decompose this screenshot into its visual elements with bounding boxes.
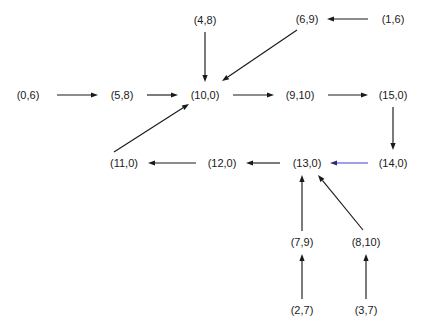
graph-node-label: (14,0): [379, 157, 408, 169]
arrow-head-icon: [171, 92, 178, 97]
graph-edge: [246, 160, 280, 165]
graph-node-label: (7,9): [291, 236, 314, 248]
arrow-head-icon: [246, 160, 253, 165]
graph-node-label: (4,8): [194, 14, 217, 26]
arrow-head-icon: [91, 92, 98, 97]
graph-edge: [148, 160, 196, 165]
diagram-canvas: (0,6)(5,8)(10,0)(9,10)(15,0)(4,8)(6,9)(1…: [0, 0, 421, 332]
graph-node-label: (11,0): [110, 157, 138, 169]
arrow-head-icon: [361, 92, 368, 97]
arrow-head-icon: [299, 254, 304, 261]
graph-node-label: (10,0): [191, 89, 220, 101]
arrow-head-icon: [330, 160, 337, 165]
graph-node-label: (15,0): [379, 89, 408, 101]
graph-node-label: (3,7): [355, 304, 378, 316]
arrow-head-icon: [299, 175, 304, 182]
arrow-head-icon: [182, 104, 189, 110]
graph-edge: [318, 175, 363, 230]
graph-node-label: (2,7): [291, 304, 314, 316]
arrow-head-icon: [327, 16, 334, 21]
graph-edge: [114, 104, 189, 152]
graph-node-label: (13,0): [293, 157, 322, 169]
arrow-head-icon: [222, 75, 229, 81]
graph-node-label: (0,6): [17, 89, 40, 101]
edge-shaft: [228, 30, 297, 77]
arrow-head-icon: [390, 143, 395, 150]
graph-node-label: (1,6): [382, 13, 405, 25]
graph-node-label: (8,10): [352, 236, 381, 248]
graph-edge: [147, 92, 178, 97]
graph-node-label: (9,10): [286, 89, 315, 101]
graph-edge: [202, 32, 207, 82]
graph-edge: [299, 175, 304, 231]
graph-edge: [363, 254, 368, 299]
graph-edge: [299, 254, 304, 299]
graph-node-label: (6,9): [296, 13, 319, 25]
arrow-head-icon: [202, 75, 207, 82]
arrow-head-icon: [363, 254, 368, 261]
graph-edge: [390, 107, 395, 150]
arrow-head-icon: [148, 160, 155, 165]
graph-edge: [57, 92, 98, 97]
graph-edge: [233, 92, 274, 97]
graph-edge: [330, 160, 368, 165]
edge-shaft: [322, 180, 363, 230]
graph-edge: [222, 30, 297, 81]
arrow-head-icon: [267, 92, 274, 97]
edge-shaft: [114, 108, 183, 152]
graph-edge: [328, 92, 368, 97]
graph-edge: [327, 16, 368, 21]
graph-node-label: (5,8): [111, 89, 134, 101]
graph-node-label: (12,0): [208, 157, 237, 169]
